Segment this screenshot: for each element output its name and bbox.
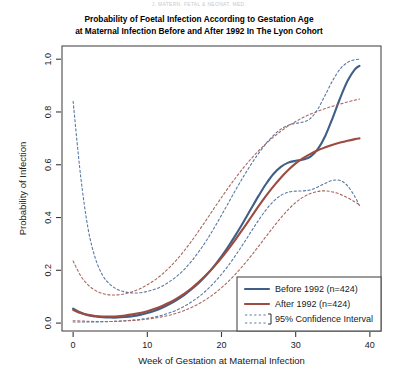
y-tick-label: 0.4 xyxy=(43,211,53,224)
legend-item-label: 95% Confidence Interval xyxy=(275,314,373,324)
y-tick-label: 0.2 xyxy=(43,264,53,277)
y-tick-label: 0.6 xyxy=(43,158,53,171)
figure-container: J. MATERN. FETAL & NEONAT. MED. Probabil… xyxy=(0,0,398,378)
x-tick-label: 0 xyxy=(71,340,76,350)
chart-legend: Before 1992 (n=424)After 1992 (n=424)95%… xyxy=(237,277,381,331)
y-tick-label: 0.8 xyxy=(43,106,53,119)
y-tick-label: 1.0 xyxy=(43,53,53,66)
series-line xyxy=(73,59,359,293)
legend-item-label: After 1992 (n=424) xyxy=(275,299,350,309)
x-tick-label: 40 xyxy=(365,340,375,350)
axis-titles: Week of Gestation at Maternal InfectionP… xyxy=(17,142,305,366)
x-tick-label: 10 xyxy=(142,340,152,350)
chart-plot-area: 0102030400.00.20.40.60.81.0 Week of Gest… xyxy=(0,0,398,378)
x-tick-label: 20 xyxy=(216,340,226,350)
legend-item-label: Before 1992 (n=424) xyxy=(275,284,358,294)
x-tick-label: 30 xyxy=(291,340,301,350)
y-tick-label: 0.0 xyxy=(43,317,53,330)
x-axis-title: Week of Gestation at Maternal Infection xyxy=(138,355,305,366)
y-axis-title: Probability of Infection xyxy=(17,142,28,235)
